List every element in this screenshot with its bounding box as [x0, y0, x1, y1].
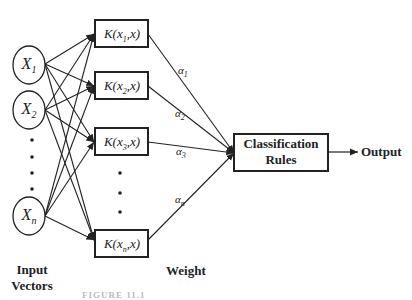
kernel-label-n: K(xn,x) — [90, 236, 154, 254]
kernel-label-2: K(x2,x) — [90, 78, 154, 96]
figure-caption: FIGURE 11.1 — [82, 290, 146, 300]
network-diagram — [0, 0, 412, 300]
input-kernel-edges — [45, 34, 94, 240]
output-label: Output — [361, 144, 401, 160]
kernel-label-1: K(x1,x) — [90, 26, 154, 44]
weight-caption: Weight — [166, 263, 206, 279]
kernel-label-3: K(x3,x) — [90, 134, 154, 152]
kernel-classifier-edges — [148, 34, 234, 240]
weight-label-n: αn — [175, 193, 185, 208]
input-vectors-caption: Input Vectors — [10, 262, 54, 294]
classifier-label: Classification Rules — [234, 136, 328, 168]
weight-label-1: α1 — [178, 64, 188, 79]
input-label-2: X2 — [14, 100, 44, 120]
weight-label-2: α2 — [175, 107, 185, 122]
input-label-n: Xn — [14, 206, 44, 226]
input-label-1: X1 — [14, 55, 44, 75]
weight-label-3: α3 — [176, 145, 186, 160]
